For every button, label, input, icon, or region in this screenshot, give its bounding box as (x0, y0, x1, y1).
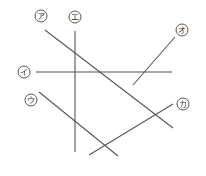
line-diagram: ア イ ウ エ オ カ (0, 0, 206, 176)
segment-a: ア (35, 10, 173, 128)
line-ka (89, 104, 173, 155)
label-ka: カ (179, 100, 187, 109)
line-u (39, 92, 118, 156)
label-i: イ (20, 68, 28, 77)
label-o: オ (178, 26, 186, 35)
label-a: ア (37, 12, 45, 21)
segment-e: エ (69, 11, 81, 152)
line-a (45, 30, 173, 128)
line-o (133, 37, 175, 85)
segment-o: オ (133, 24, 188, 85)
label-u: ウ (27, 96, 35, 105)
segment-ka: カ (89, 98, 189, 155)
label-e: エ (71, 13, 79, 22)
